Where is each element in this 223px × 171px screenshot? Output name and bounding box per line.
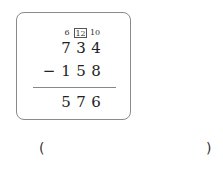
minuend-digit-tens: 3 <box>74 39 88 57</box>
sum-line-divider <box>33 87 116 88</box>
answer-close-paren: ) <box>206 140 211 156</box>
result-digit-ones: 6 <box>89 93 103 111</box>
minuend-digit-hundreds: 7 <box>59 39 73 57</box>
subtrahend-digit-tens: 5 <box>74 62 88 80</box>
borrow-mark-tens-boxed: 12 <box>74 28 87 38</box>
minuend-row: 7 3 4 <box>17 39 130 57</box>
result-digit-tens: 7 <box>74 93 88 111</box>
borrow-mark-hundreds: 6 <box>61 28 73 38</box>
borrow-mark-ones: 10 <box>89 28 101 38</box>
result-digit-hundreds: 5 <box>59 93 73 111</box>
subtrahend-row: − 1 5 8 <box>17 62 130 80</box>
minus-sign: − <box>41 62 57 80</box>
answer-open-paren: ( <box>39 140 44 156</box>
subtraction-card: 6 12 10 7 3 4 − 1 5 8 5 7 6 <box>16 12 131 120</box>
subtrahend-digit-hundreds: 1 <box>59 62 73 80</box>
subtrahend-digit-ones: 8 <box>89 62 103 80</box>
minuend-digit-ones: 4 <box>89 39 103 57</box>
result-row: 5 7 6 <box>17 93 130 111</box>
answer-input[interactable] <box>52 138 206 160</box>
